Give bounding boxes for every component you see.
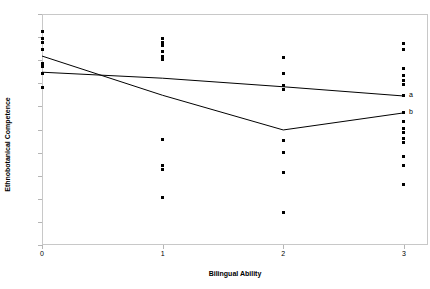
- data-point: [41, 86, 44, 89]
- data-point: [402, 127, 405, 130]
- data-point: [161, 164, 164, 167]
- data-point: [161, 168, 164, 171]
- trend-line-b: [42, 56, 404, 130]
- y-tick-mark: [38, 83, 42, 84]
- data-point: [282, 151, 285, 154]
- x-tick-label: 1: [148, 250, 178, 257]
- x-tick-label: 2: [268, 250, 298, 257]
- data-point: [161, 196, 164, 199]
- data-point: [282, 88, 285, 91]
- data-point: [402, 79, 405, 82]
- y-tick-mark: [38, 153, 42, 154]
- trend-lines-group: [42, 14, 428, 245]
- data-point: [282, 211, 285, 214]
- y-tick-mark: [38, 14, 42, 15]
- data-point: [402, 74, 405, 77]
- y-tick-mark: [38, 106, 42, 107]
- line-label-b: b: [409, 108, 413, 115]
- data-point: [402, 164, 405, 167]
- data-point: [282, 171, 285, 174]
- x-tick-mark: [404, 245, 405, 249]
- plot-area: [42, 14, 428, 245]
- data-point: [402, 42, 405, 45]
- data-point: [402, 94, 405, 97]
- y-tick-mark: [38, 199, 42, 200]
- data-point: [402, 137, 405, 140]
- data-point: [41, 65, 44, 68]
- x-axis-title: Bilingual Ability: [42, 270, 428, 277]
- x-tick-label: 0: [27, 250, 57, 257]
- data-point: [41, 30, 44, 33]
- data-point: [41, 72, 44, 75]
- data-point: [41, 37, 44, 40]
- data-point: [402, 141, 405, 144]
- data-point: [41, 48, 44, 51]
- data-point: [402, 111, 405, 114]
- data-point: [41, 41, 44, 44]
- line-label-a: a: [409, 91, 413, 98]
- data-point: [161, 37, 164, 40]
- data-point: [161, 41, 164, 44]
- y-axis-title: Ethnobotanical Competence: [0, 0, 14, 289]
- data-point: [402, 120, 405, 123]
- data-point: [282, 84, 285, 87]
- x-tick-mark: [42, 245, 43, 249]
- x-tick-label: 3: [389, 250, 419, 257]
- y-tick-mark: [38, 222, 42, 223]
- data-point: [402, 67, 405, 70]
- data-point: [402, 183, 405, 186]
- data-point: [402, 48, 405, 51]
- data-point: [161, 44, 164, 47]
- y-tick-mark: [38, 130, 42, 131]
- data-point: [282, 139, 285, 142]
- trend-line-a: [42, 72, 404, 96]
- data-point: [161, 138, 164, 141]
- data-point: [161, 58, 164, 61]
- data-point: [402, 83, 405, 86]
- data-point: [282, 56, 285, 59]
- data-point: [161, 50, 164, 53]
- data-point: [402, 131, 405, 134]
- chart-container: Ethnobotanical Competence 00.10.20.30.40…: [0, 0, 430, 289]
- x-tick-mark: [163, 245, 164, 249]
- y-tick-mark: [38, 176, 42, 177]
- x-tick-mark: [283, 245, 284, 249]
- data-point: [282, 72, 285, 75]
- data-point: [402, 155, 405, 158]
- y-tick-mark: [38, 60, 42, 61]
